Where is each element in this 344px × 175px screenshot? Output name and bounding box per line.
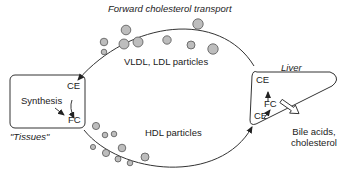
bile-acids-line2: cholesterol [284,138,344,148]
liver-fc-label: FC [264,99,277,109]
synthesis-label: Synthesis [21,96,62,106]
liver-label: Liver [281,63,302,73]
tissues-fc-label: FC [68,115,81,125]
diagram-canvas [0,0,344,175]
bile-acids-line1: Bile acids, [284,127,344,137]
liver-ce-bottom-label: CE [254,111,267,121]
tissues-label: "Tissues" [10,132,49,142]
vldl-ldl-label: VLDL, LDL particles [124,57,208,67]
tissues-ce-label: CE [67,81,80,91]
excretion-arrow [278,97,302,118]
liver-ce-top-label: CE [256,75,269,85]
bile-acids-label: Bile acids, cholesterol [284,127,344,147]
diagram-title: Forward cholesterol transport [108,4,232,14]
synthesis-to-fc-arrow [55,108,64,115]
vldl-ldl-particles [100,19,218,55]
hdl-label: HDL particles [145,128,202,138]
